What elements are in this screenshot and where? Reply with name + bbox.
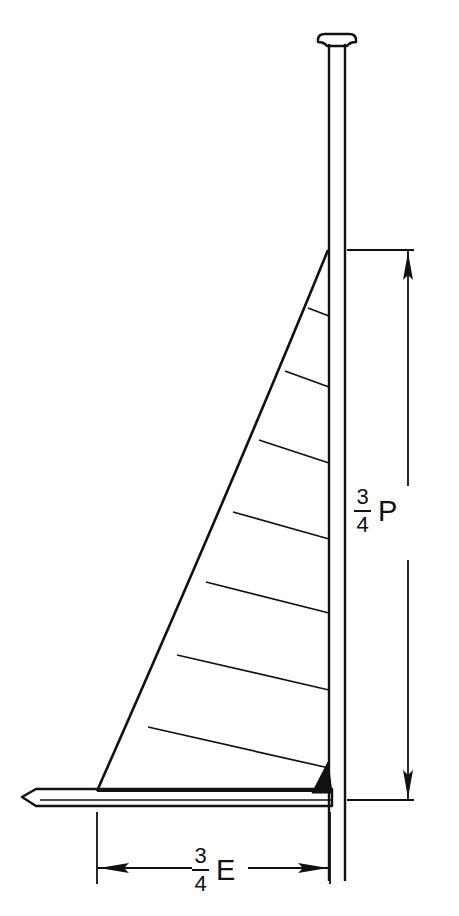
batten-4	[233, 512, 329, 539]
batten-6	[177, 655, 329, 690]
sail-luff	[97, 250, 328, 791]
fraction-three-quarters-p: 3 4	[354, 486, 371, 536]
dimension-symbol-p: P	[378, 497, 397, 526]
dimension-label-three-quarter-e: 3 4 E	[192, 845, 235, 895]
batten-2	[285, 371, 329, 387]
batten-5	[206, 582, 329, 613]
fraction-numerator: 3	[194, 845, 206, 868]
batten-7	[148, 727, 329, 768]
batten-1	[308, 308, 329, 316]
mast-truck-icon	[318, 34, 356, 46]
mast	[318, 34, 356, 881]
sail	[97, 250, 332, 793]
fraction-numerator: 3	[356, 486, 368, 509]
dimension-label-three-quarter-p: 3 4 P	[354, 486, 397, 536]
sail-plan-diagram	[0, 0, 459, 916]
figure-root: 3 4 P 3 4 E	[0, 0, 459, 916]
figure-caption	[0, 901, 459, 916]
dimension-symbol-e: E	[216, 856, 235, 885]
fraction-three-quarters-e: 3 4	[192, 845, 209, 895]
batten-3	[259, 440, 329, 463]
fraction-denominator: 4	[356, 513, 368, 536]
fraction-denominator: 4	[194, 872, 206, 895]
